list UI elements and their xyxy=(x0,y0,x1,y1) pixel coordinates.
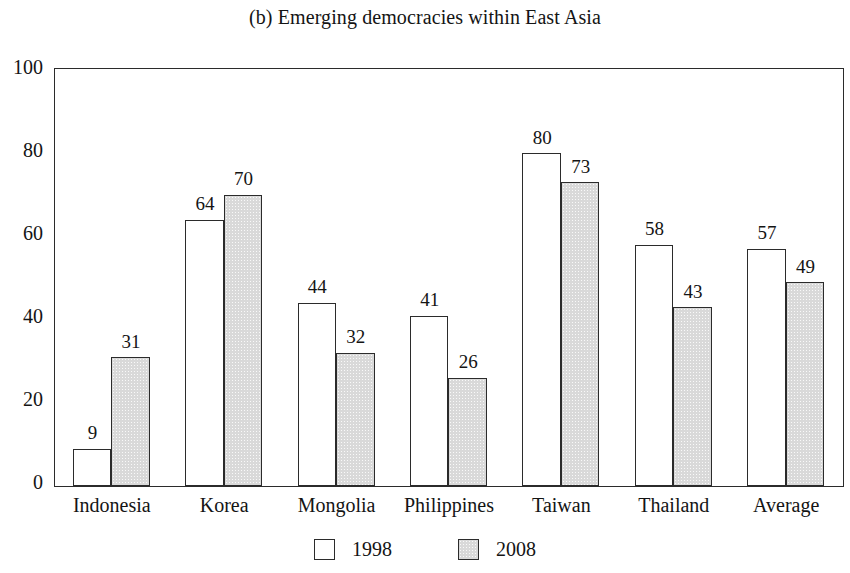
plot-area xyxy=(54,68,844,487)
bar-taiwan-1998 xyxy=(522,153,561,486)
white-square-swatch xyxy=(314,539,335,560)
bar-value-label: 64 xyxy=(170,193,241,215)
bars-layer xyxy=(55,69,843,486)
bar-value-label: 57 xyxy=(732,222,803,244)
bar-mongolia-2008 xyxy=(336,353,375,486)
bar-value-label: 80 xyxy=(507,127,578,149)
bar-value-label: 31 xyxy=(96,331,167,353)
bar-value-label: 44 xyxy=(282,276,353,298)
y-axis-tick-label: 20 xyxy=(0,388,43,411)
bar-average-2008 xyxy=(786,282,825,486)
bar-value-label: 70 xyxy=(208,168,279,190)
bar-value-label: 73 xyxy=(545,156,616,178)
bar-thailand-2008 xyxy=(673,307,712,486)
bar-average-1998 xyxy=(747,249,786,486)
legend-label: 2008 xyxy=(496,538,536,561)
bar-indonesia-1998 xyxy=(73,449,112,486)
legend-label: 1998 xyxy=(352,538,392,561)
legend-item-1998: 1998 xyxy=(314,538,392,561)
bar-value-label: 9 xyxy=(57,422,128,444)
bar-chart-figure: (b) Emerging democracies within East Asi… xyxy=(0,0,850,573)
bar-value-label: 32 xyxy=(321,326,392,348)
bar-korea-2008 xyxy=(224,195,263,486)
y-axis-tick-label: 0 xyxy=(0,471,43,494)
bar-value-label: 41 xyxy=(395,289,466,311)
chart-title: (b) Emerging democracies within East Asi… xyxy=(0,6,850,29)
y-axis-tick-label: 60 xyxy=(0,222,43,245)
chart-legend: 19982008 xyxy=(0,538,850,561)
bar-value-label: 58 xyxy=(619,218,690,240)
bar-value-label: 49 xyxy=(770,256,841,278)
category-label-average: Average xyxy=(718,494,850,517)
bar-value-label: 43 xyxy=(658,281,729,303)
y-axis-tick-label: 100 xyxy=(0,56,43,79)
bar-value-label: 26 xyxy=(433,351,504,373)
bar-korea-1998 xyxy=(185,220,224,486)
bar-philippines-2008 xyxy=(448,378,487,486)
legend-item-2008: 2008 xyxy=(458,538,536,561)
bar-philippines-1998 xyxy=(410,316,449,486)
bar-taiwan-2008 xyxy=(561,182,600,486)
y-axis-tick-label: 40 xyxy=(0,305,43,328)
y-axis-tick-label: 80 xyxy=(0,139,43,162)
gray-square-swatch xyxy=(458,539,479,560)
